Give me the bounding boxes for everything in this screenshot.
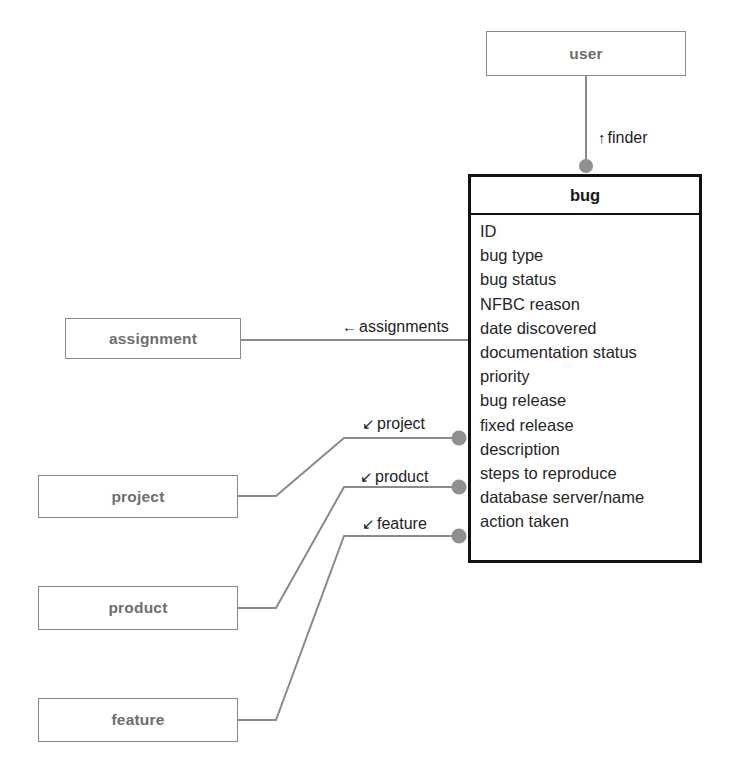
connector-dot-finder [579,159,593,173]
entity-title-user: user [569,45,603,63]
entity-title-bug: bug [570,186,600,205]
entity-box-assignment[interactable]: assignment [65,318,241,359]
arrow-down-left-icon: ↙ [362,515,375,533]
entity-title-product: product [108,599,167,617]
connector-feature [238,536,457,720]
relationship-label-project: ↙project [360,415,427,433]
entity-box-feature[interactable]: feature [38,698,238,742]
entity-attribute: action taken [480,509,699,533]
entity-attribute: bug type [480,243,699,267]
relationship-label-assignments: ←assignments [340,318,451,336]
er-diagram: user assignment project product feature … [0,0,738,783]
entity-box-project[interactable]: project [38,475,238,518]
entity-box-product[interactable]: product [38,586,238,630]
entity-title-project: project [111,488,164,506]
relationship-label-feature: ↙feature [360,515,429,533]
arrow-left-icon: ← [342,318,357,335]
relationship-label-feature-text: feature [377,515,427,532]
entity-attribute: priority [480,364,699,388]
entity-attribute: NFBC reason [480,292,699,316]
relationship-label-finder: ↑finder [596,129,650,147]
relationship-label-product: ↙product [358,468,430,486]
connector-product [238,487,457,608]
entity-attribute: date discovered [480,316,699,340]
arrow-down-left-icon: ↙ [362,415,375,433]
relationship-label-product-text: product [375,468,428,485]
entity-attribute: ID [480,219,699,243]
entity-attribute: bug release [480,388,699,412]
entity-title-feature: feature [111,711,164,729]
entity-box-user[interactable]: user [486,31,686,76]
entity-box-bug[interactable]: bug IDbug typebug statusNFBC reasondate … [468,174,702,563]
arrow-up-icon: ↑ [598,129,606,146]
relationship-label-finder-text: finder [608,129,648,146]
entity-attribute: description [480,437,699,461]
relationship-label-assignments-text: assignments [359,318,449,335]
arrow-down-left-icon: ↙ [360,468,373,486]
entity-attribute: documentation status [480,340,699,364]
entity-bug-attribute-list: IDbug typebug statusNFBC reasondate disc… [471,215,699,560]
entity-bug-title-bar: bug [471,177,699,215]
connector-dot-product [452,480,467,495]
entity-attribute: database server/name [480,485,699,509]
entity-attribute: steps to reproduce [480,461,699,485]
entity-attribute: fixed release [480,413,699,437]
entity-attribute: bug status [480,267,699,291]
relationship-label-project-text: project [377,415,425,432]
connector-dot-project [452,431,467,446]
entity-title-assignment: assignment [109,330,197,348]
connector-dot-feature [452,529,467,544]
